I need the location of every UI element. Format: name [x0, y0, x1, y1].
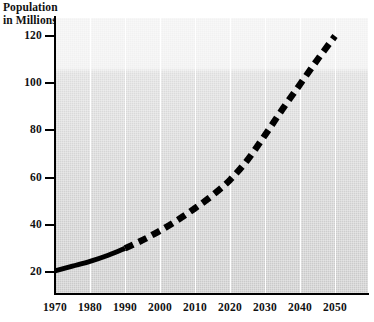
- y-tick-label-40: 40: [0, 218, 42, 230]
- y-tick-40: [45, 224, 54, 226]
- plot-area: [55, 18, 368, 293]
- y-tick-label-20: 20: [0, 265, 42, 277]
- y-tick-120: [45, 35, 54, 37]
- gridline-2040: [300, 18, 301, 293]
- gridline-1990: [125, 18, 126, 293]
- gridline-1980: [90, 18, 91, 293]
- gridline-2030: [265, 18, 266, 293]
- y-tick-100: [45, 82, 54, 84]
- plot-halftone-texture: [55, 18, 368, 293]
- y-axis-title-line1: Population: [3, 1, 58, 13]
- y-tick-label-60: 60: [0, 171, 42, 183]
- gridline-2000: [160, 18, 161, 293]
- gridline-2050: [335, 18, 336, 293]
- y-tick-label-80: 80: [0, 123, 42, 135]
- x-axis-line: [54, 293, 369, 295]
- population-chart: Populationin Millions 20406080100120 197…: [0, 0, 374, 322]
- gridline-2020: [230, 18, 231, 293]
- y-tick-80: [45, 129, 54, 131]
- y-axis-title: Populationin Millions: [3, 1, 58, 27]
- y-axis-line: [54, 16, 56, 295]
- y-tick-60: [45, 177, 54, 179]
- y-tick-label-120: 120: [0, 29, 42, 41]
- gridline-2010: [195, 18, 196, 293]
- x-tick-label-2050: 2050: [313, 301, 357, 313]
- y-tick-label-100: 100: [0, 76, 42, 88]
- y-tick-20: [45, 271, 54, 273]
- y-axis-title-line2: in Millions: [3, 14, 57, 26]
